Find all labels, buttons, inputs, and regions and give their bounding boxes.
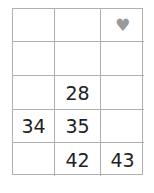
grid-cell [55,42,101,76]
grid-cell [13,76,55,110]
grid-cell: 34 [13,110,55,143]
number-grid: ♥ 28 34 35 42 43 [12,8,143,175]
grid-cell [13,9,55,42]
grid-cell: 42 [55,143,101,176]
heart-icon: ♥ [101,9,144,42]
grid-cell [55,9,101,42]
grid-cell [101,110,144,143]
grid-cell [13,42,55,76]
grid-cell [13,143,55,176]
grid-cell: 35 [55,110,101,143]
grid-cell [101,76,144,110]
grid-cell [101,42,144,76]
grid-cell: 28 [55,76,101,110]
grid-cell: 43 [101,143,144,176]
